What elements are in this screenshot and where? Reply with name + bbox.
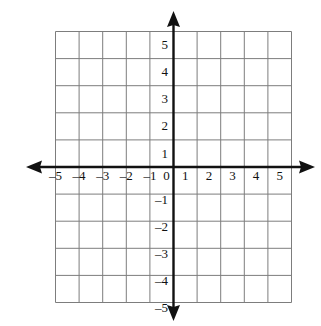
x-axis-left-arrow-icon xyxy=(26,161,42,174)
x-axis-right-arrow-icon xyxy=(299,161,315,174)
y-tick-label-1: 1 xyxy=(162,146,169,161)
y-axis-tick-labels-positive: 1 2 3 4 5 xyxy=(162,37,169,160)
coordinate-plane-figure: –5 –4 –3 –2 –1 0 1 2 3 4 5 1 2 3 4 5 –1 … xyxy=(0,0,321,326)
y-tick-label--2: –2 xyxy=(154,219,168,234)
y-axis-tick-labels-negative: –1 –2 –3 –4 –5 xyxy=(154,192,169,315)
x-tick-label-2: 2 xyxy=(206,168,213,183)
x-tick-label-5: 5 xyxy=(276,168,283,183)
x-tick-label-1: 1 xyxy=(182,168,189,183)
y-tick-label--3: –3 xyxy=(154,246,168,261)
y-tick-label--1: –1 xyxy=(154,192,168,207)
y-axis-down-arrow-icon xyxy=(167,305,180,321)
x-tick-label--1: –1 xyxy=(142,168,156,183)
coordinate-plane-svg: –5 –4 –3 –2 –1 0 1 2 3 4 5 1 2 3 4 5 –1 … xyxy=(0,0,321,326)
x-tick-label--4: –4 xyxy=(72,168,87,183)
x-tick-label--5: –5 xyxy=(48,168,62,183)
y-tick-label-4: 4 xyxy=(162,64,169,79)
y-tick-label--4: –4 xyxy=(154,273,169,288)
x-tick-label-4: 4 xyxy=(253,168,260,183)
y-tick-label-5: 5 xyxy=(162,37,169,52)
y-tick-label-2: 2 xyxy=(162,118,169,133)
y-tick-label--5: –5 xyxy=(154,300,168,315)
x-tick-label--3: –3 xyxy=(95,168,109,183)
x-axis xyxy=(26,161,315,174)
x-tick-label--2: –2 xyxy=(119,168,133,183)
y-tick-label-3: 3 xyxy=(162,91,169,106)
x-axis-tick-labels-negative: –5 –4 –3 –2 –1 xyxy=(48,168,156,183)
x-tick-label-3: 3 xyxy=(229,168,236,183)
origin-label-0: 0 xyxy=(163,168,170,183)
y-axis-up-arrow-icon xyxy=(167,11,180,27)
